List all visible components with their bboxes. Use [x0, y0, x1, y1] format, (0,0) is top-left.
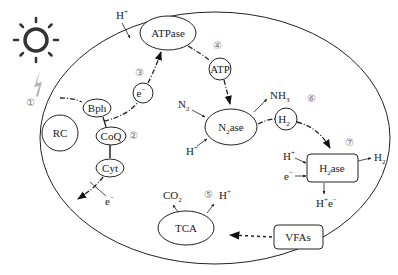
step-number-2: ②: [129, 130, 138, 141]
node-atp: ATP: [209, 58, 231, 80]
node-electron: e−: [133, 83, 153, 103]
step-number-1: ①: [26, 97, 35, 108]
label-n2-in: N2: [178, 98, 190, 113]
svg-text:Cyt: Cyt: [102, 162, 118, 174]
edge-n2ase-h2: [258, 119, 275, 124]
edge-h-plus-tca: [207, 204, 214, 213]
node-h2: H2: [275, 108, 297, 130]
edge-light-bph: [60, 98, 82, 102]
edge-h-plus-h2ase: [295, 158, 306, 163]
edge-e-minus-cyt: [90, 182, 106, 196]
node-tca: TCA: [158, 211, 214, 245]
step-number-3: ③: [135, 67, 144, 78]
label-nh3-out: NH3: [270, 89, 290, 104]
svg-text:TCA: TCA: [175, 222, 197, 234]
step-number-5: ⑤: [204, 189, 213, 200]
node-h2ase: H2ase: [307, 154, 358, 182]
label-h-plus-h2ase: H+: [283, 149, 295, 162]
label-e-minus-h2ase: e−: [284, 169, 293, 182]
lightning-icon: [34, 71, 42, 97]
edge-h2-out: [358, 158, 371, 161]
step-number-6: ⑥: [307, 93, 316, 104]
node-cyt: Cyt: [96, 159, 124, 177]
node-rc: RC: [42, 115, 78, 151]
edge-h2-h2ase: [297, 122, 330, 148]
svg-text:RC: RC: [53, 127, 68, 139]
svg-text:ATP: ATP: [210, 63, 230, 75]
edge-nh3-out: [254, 99, 267, 112]
edge-co2-out: [173, 205, 178, 212]
label-co2-out: CO2: [163, 189, 182, 204]
edge-bph-coq: [103, 117, 106, 127]
edge-e-atpase: [148, 52, 161, 83]
svg-text:Bph: Bph: [88, 102, 107, 114]
node-coq: CoQ: [96, 127, 126, 145]
edge-n2-in: [192, 110, 205, 117]
node-atpase: ATPase: [140, 16, 196, 50]
label-h-plus-e-minus-out: H+e−: [316, 196, 337, 209]
svg-text:CoQ: CoQ: [101, 130, 122, 142]
node-n2ase: N2ase: [205, 109, 257, 145]
edge-atp-n2ase: [224, 80, 230, 104]
step-number-4: ④: [213, 40, 222, 51]
step-number-7: ⑦: [345, 137, 354, 148]
diagram-canvas: ① RC Bph CoQ ② e− ③ H+ ATPase ④ ATP: [0, 0, 398, 275]
label-h-plus-tca: H+: [219, 188, 231, 201]
label-e-minus-cyt: e−: [105, 194, 114, 207]
label-h-plus-n2ase: H+: [186, 144, 198, 157]
node-vfas: VFAs: [274, 225, 323, 249]
edge-cyt-out: [78, 177, 103, 199]
node-bph: Bph: [83, 99, 111, 117]
label-h2-out: H2: [374, 151, 386, 166]
svg-text:VFAs: VFAs: [285, 231, 310, 243]
sun-icon: [14, 18, 58, 62]
svg-text:ATPase: ATPase: [151, 27, 185, 39]
label-h-plus-top: H+: [116, 8, 128, 21]
edge-atpase-atp: [188, 46, 210, 61]
edge-vfas-tca: [230, 235, 272, 237]
edge-h-plus-n2ase: [197, 139, 207, 146]
